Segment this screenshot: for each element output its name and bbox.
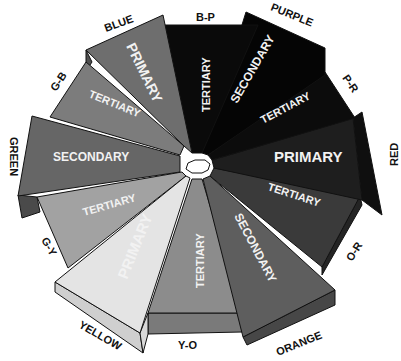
label-red-type: PRIMARY — [274, 148, 343, 165]
green-side — [18, 195, 40, 218]
center-hub — [186, 160, 210, 173]
y-o-side — [148, 313, 242, 334]
label-orange: ORANGE — [274, 329, 323, 358]
label-y-o: Y-O — [178, 339, 197, 351]
color-wheel-diagram: PRIMARY TERTIARY SECONDARY TERTIARY PRIM… — [0, 0, 401, 361]
label-green-type: SECONDARY — [53, 150, 129, 164]
label-b-p: B-P — [196, 11, 215, 23]
wedge-faces — [18, 12, 362, 337]
label-y-o-type: TERTIARY — [194, 233, 206, 288]
label-red: RED — [388, 143, 400, 166]
label-green: GREEN — [8, 137, 20, 176]
label-purple: PURPLE — [269, 1, 315, 29]
label-o-r: O-R — [344, 240, 365, 264]
label-p-r: P-R — [340, 72, 361, 94]
label-b-p-type: TERTIARY — [200, 57, 212, 112]
label-g-b: G-B — [48, 70, 69, 93]
